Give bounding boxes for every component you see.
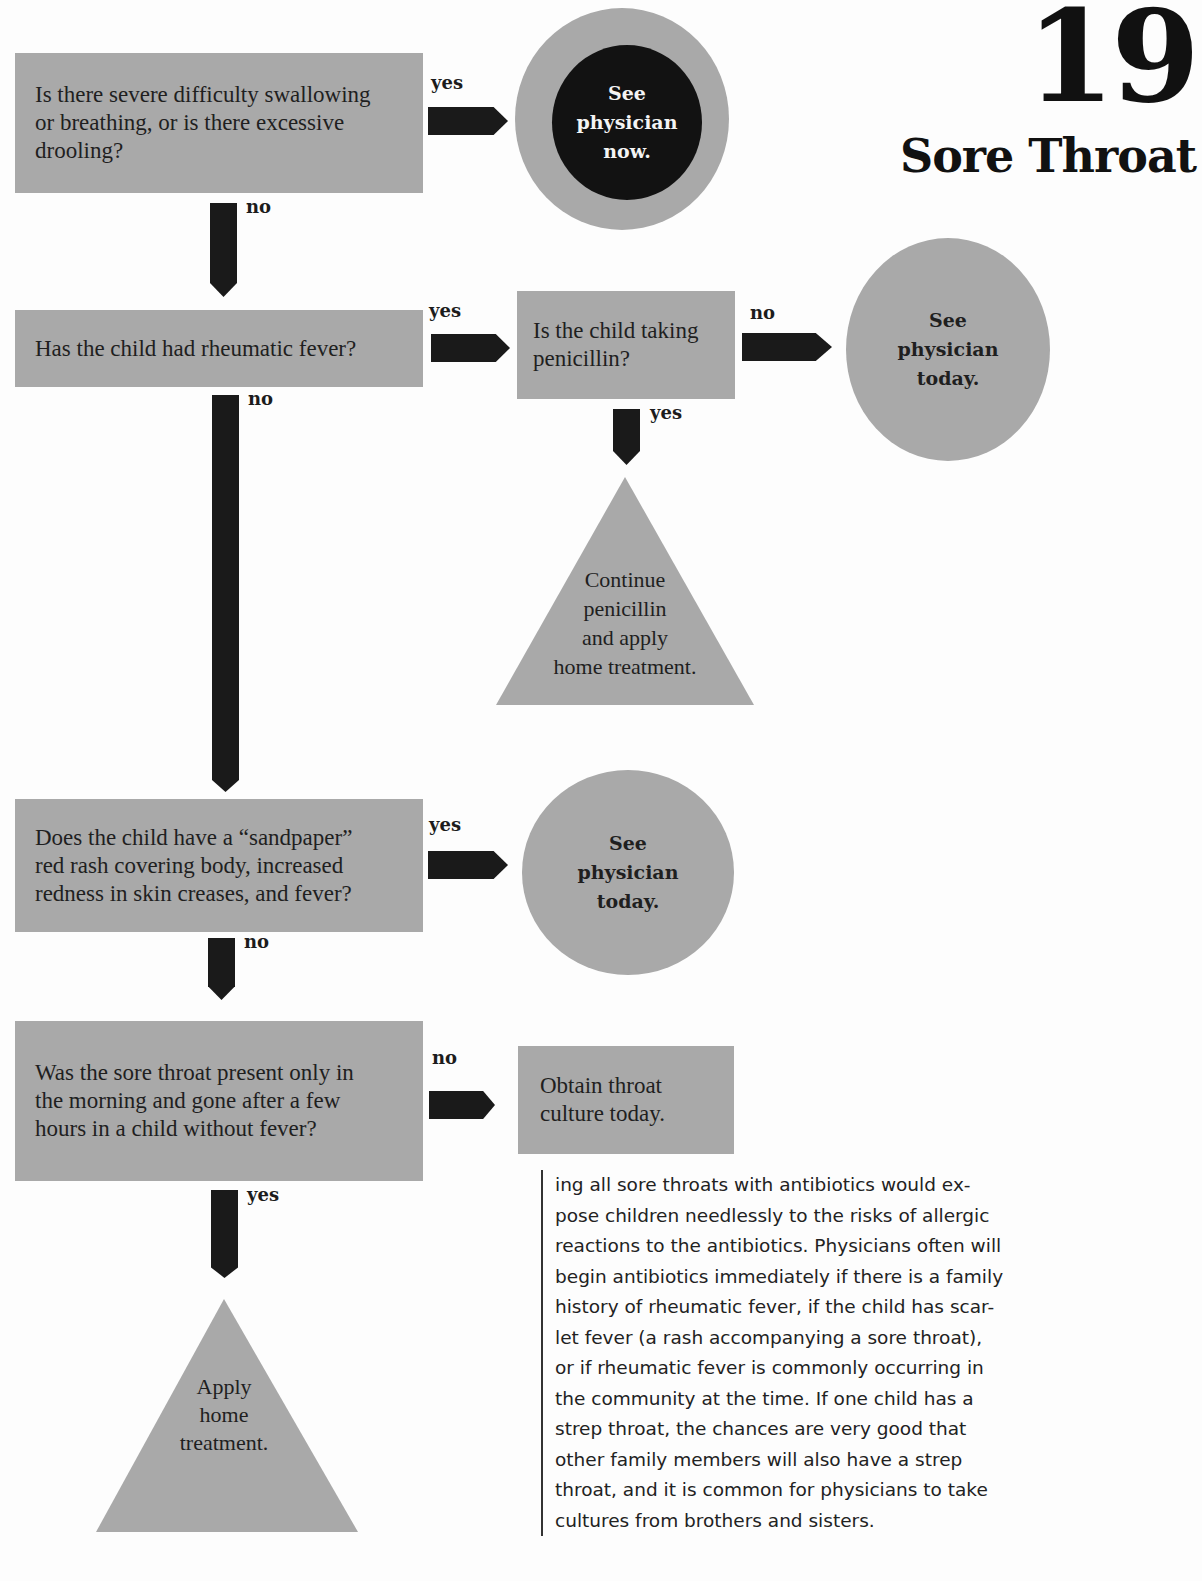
arrow-down-icon xyxy=(212,395,239,792)
question-box-swallowing: Is there severe difficulty swallowing or… xyxy=(15,53,423,193)
yes-label: yes xyxy=(429,300,461,321)
outcome-line: today. xyxy=(898,364,999,393)
arrow-down-icon xyxy=(210,203,237,297)
question-box-morning-sore-throat: Was the sore throat present only in the … xyxy=(15,1021,423,1181)
question-line: or breathing, or is there excessive xyxy=(35,109,371,137)
question-box-rheumatic-fever: Has the child had rheumatic fever? xyxy=(15,310,423,387)
outcome-line: physician xyxy=(577,108,678,137)
question-line: red rash covering body, increased xyxy=(35,852,352,880)
outcome-box-throat-culture: Obtain throat culture today. xyxy=(518,1046,734,1154)
chapter-title: Sore Throat xyxy=(900,128,1196,184)
outcome-text: Apply home treatment. xyxy=(124,1373,324,1457)
arrow-right-icon xyxy=(428,851,508,879)
question-line: penicillin? xyxy=(533,345,698,373)
no-label: no xyxy=(246,196,271,217)
arrow-right-icon xyxy=(428,107,508,135)
no-label: no xyxy=(750,302,775,323)
question-line: drooling? xyxy=(35,137,371,165)
outcome-line: See xyxy=(578,829,679,858)
arrow-down-icon xyxy=(613,409,640,465)
question-line: redness in skin creases, and fever? xyxy=(35,880,352,908)
arrow-right-icon xyxy=(742,333,832,361)
outcome-text: Continue penicillin and apply home treat… xyxy=(480,565,770,681)
no-label: no xyxy=(432,1047,457,1068)
outcome-line: today. xyxy=(578,887,679,916)
outcome-circle-today: See physician today. xyxy=(522,770,734,975)
arrow-right-icon xyxy=(431,334,510,362)
outcome-line: Obtain throat xyxy=(540,1072,665,1100)
arrow-right-icon xyxy=(429,1091,495,1119)
yes-label: yes xyxy=(650,402,682,423)
outcome-line: physician xyxy=(578,858,679,887)
outcome-line: See xyxy=(898,306,999,335)
yes-label: yes xyxy=(429,814,461,835)
outcome-line: See xyxy=(577,79,678,108)
question-box-penicillin: Is the child taking penicillin? xyxy=(517,291,735,399)
question-line: Is there severe difficulty swallowing xyxy=(35,81,371,109)
question-line: hours in a child without fever? xyxy=(35,1115,354,1143)
question-line: Was the sore throat present only in xyxy=(35,1059,354,1087)
outcome-line: culture today. xyxy=(540,1100,665,1128)
outcome-circle-today: See physician today. xyxy=(846,238,1050,461)
no-label: no xyxy=(244,931,269,952)
body-paragraph: ing all sore throats with antibiotics wo… xyxy=(541,1170,959,1536)
question-line: Is the child taking xyxy=(533,317,698,345)
outcome-line: now. xyxy=(577,137,678,166)
question-text: Has the child had rheumatic fever? xyxy=(35,335,356,363)
question-line: Does the child have a “sandpaper” xyxy=(35,824,352,852)
question-box-rash: Does the child have a “sandpaper” red ra… xyxy=(15,799,423,932)
yes-label: yes xyxy=(431,72,463,93)
arrow-down-icon xyxy=(208,938,235,1000)
chapter-number: 19 xyxy=(1026,0,1196,120)
outcome-inner-emergency: See physician now. xyxy=(552,45,702,200)
no-label: no xyxy=(248,388,273,409)
arrow-down-icon xyxy=(211,1190,238,1278)
outcome-line: physician xyxy=(898,335,999,364)
yes-label: yes xyxy=(247,1184,279,1205)
question-line: the morning and gone after a few xyxy=(35,1087,354,1115)
